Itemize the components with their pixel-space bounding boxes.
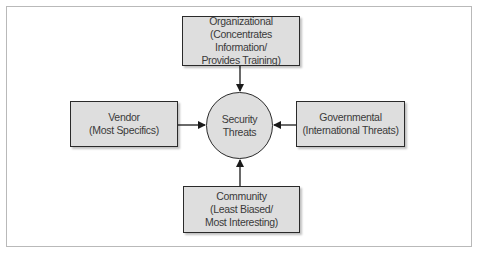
node-title: Organizational	[209, 15, 273, 28]
node-organizational: Organizational (Concentrates Information…	[182, 16, 300, 66]
node-subtitle: Most Interesting)	[205, 216, 278, 229]
node-subtitle: (International Threats)	[302, 124, 398, 137]
node-subtitle: (Most Specifics)	[89, 124, 159, 137]
center-label: Security	[222, 113, 258, 126]
node-subtitle: Provides Training)	[201, 54, 280, 67]
center-label: Threats	[223, 126, 257, 139]
node-title: Governmental	[319, 111, 381, 124]
node-title: Community	[216, 190, 266, 203]
node-governmental: Governmental (International Threats)	[296, 101, 405, 147]
node-title: Vendor	[108, 111, 139, 124]
node-community: Community (Least Biased/ Most Interestin…	[183, 186, 300, 233]
node-security-threats: Security Threats	[206, 92, 273, 159]
node-subtitle: (Concentrates Information/	[183, 28, 299, 54]
node-vendor: Vendor (Most Specifics)	[70, 101, 178, 147]
node-subtitle: (Least Biased/	[210, 203, 273, 216]
